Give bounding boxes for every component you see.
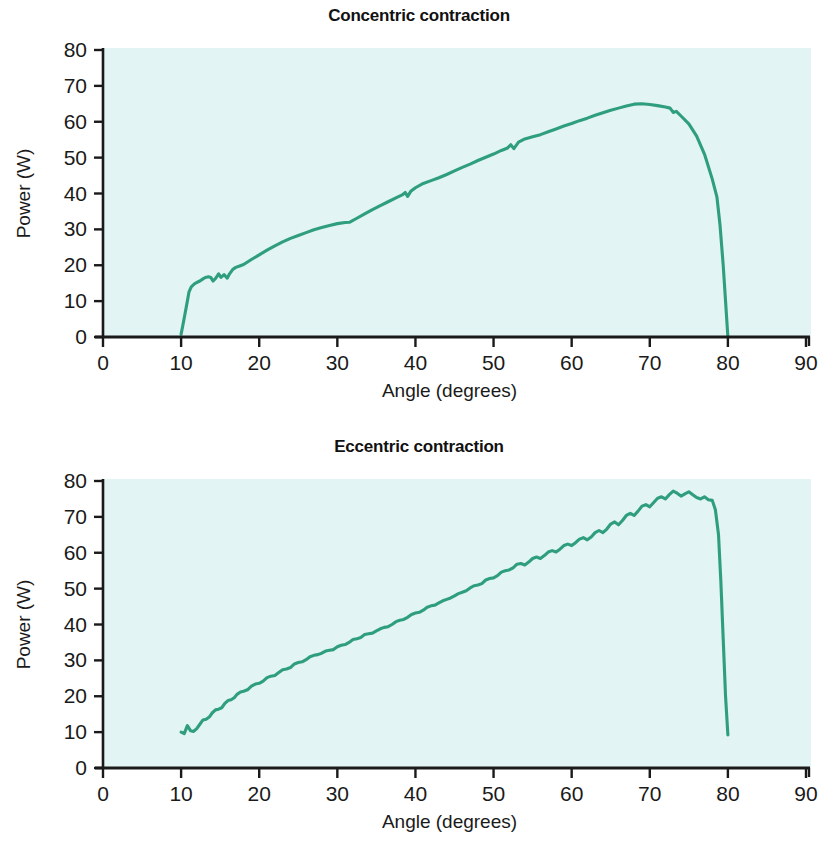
x-axis-tick-label: 70 (638, 782, 661, 805)
y-axis-tick-label: 80 (64, 469, 87, 492)
y-axis-title: Power (W) (13, 149, 34, 239)
x-axis-tick-label: 30 (326, 351, 349, 374)
x-axis-tick-label: 0 (97, 351, 109, 374)
y-axis-title: Power (W) (13, 580, 34, 670)
chart-panel-concentric: Concentric contraction 01020304050607080… (0, 0, 838, 431)
y-axis-tick-label: 10 (64, 720, 87, 743)
x-axis-tick-label: 40 (404, 782, 427, 805)
x-axis-tick-label: 50 (482, 782, 505, 805)
y-axis-tick-label: 50 (64, 146, 87, 169)
y-axis-tick-label: 40 (64, 613, 87, 636)
y-axis-tick-label: 10 (64, 289, 87, 312)
x-axis-title: Angle (degrees) (382, 380, 517, 401)
x-axis-tick-label: 80 (716, 782, 739, 805)
x-axis-tick-label: 50 (482, 351, 505, 374)
plot-background (104, 48, 811, 337)
y-axis-tick-label: 0 (75, 325, 87, 348)
y-axis-tick-label: 60 (64, 541, 87, 564)
y-axis-tick-label: 30 (64, 217, 87, 240)
y-axis-tick-label: 80 (64, 38, 87, 61)
x-axis-tick-label: 70 (638, 351, 661, 374)
y-axis-tick-label: 50 (64, 577, 87, 600)
x-axis-tick-label: 0 (97, 782, 109, 805)
x-axis-tick-label: 90 (794, 351, 817, 374)
x-axis-tick-label: 60 (560, 351, 583, 374)
x-axis-title: Angle (degrees) (382, 811, 517, 832)
x-axis-tick-label: 90 (794, 782, 817, 805)
x-axis-tick-label: 30 (326, 782, 349, 805)
x-axis-tick-label: 10 (169, 782, 192, 805)
y-axis-tick-label: 60 (64, 110, 87, 133)
y-axis-tick-label: 70 (64, 74, 87, 97)
y-axis-tick-label: 40 (64, 182, 87, 205)
plot-background (104, 479, 811, 768)
chart-panel-eccentric: Eccentric contraction 010203040506070800… (0, 431, 838, 862)
y-axis-tick-label: 20 (64, 253, 87, 276)
plot-svg-eccentric: 010203040506070800102030405060708090Angl… (0, 431, 838, 862)
y-axis-tick-label: 70 (64, 505, 87, 528)
x-axis-tick-label: 20 (248, 351, 271, 374)
x-axis-tick-label: 20 (248, 782, 271, 805)
x-axis-tick-label: 80 (716, 351, 739, 374)
x-axis-tick-label: 40 (404, 351, 427, 374)
y-axis-tick-label: 20 (64, 684, 87, 707)
x-axis-tick-label: 10 (169, 351, 192, 374)
y-axis-tick-label: 0 (75, 756, 87, 779)
y-axis-tick-label: 30 (64, 648, 87, 671)
plot-svg-concentric: 010203040506070800102030405060708090Angl… (0, 0, 838, 431)
x-axis-tick-label: 60 (560, 782, 583, 805)
